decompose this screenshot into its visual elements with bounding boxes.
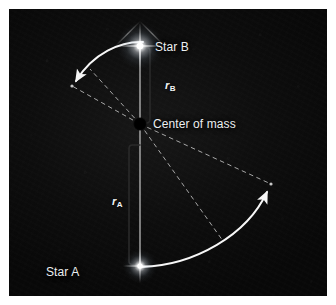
dashed-radius-a-rotated [140, 124, 271, 184]
radius-b-subscript: B [170, 84, 176, 93]
dashed-radius-a-intermediate [140, 124, 223, 241]
star-a-glyph [123, 249, 157, 283]
center-of-mass-label: Center of mass [153, 118, 236, 130]
radius-b-label: rB [165, 80, 175, 91]
radius-a-subscript: A [117, 200, 123, 209]
radius-a-symbol: r [112, 195, 116, 207]
dashed-radii-star-b [72, 69, 140, 124]
radius-a-label: rA [112, 196, 122, 207]
star-b-later-position-marker [70, 84, 73, 87]
binary-star-diagram: Star B Star A Center of mass rB rA [0, 0, 336, 305]
dashed-radius-b-intermediate [90, 69, 140, 124]
center-of-mass-dot [134, 118, 147, 131]
sky-panel: Star B Star A Center of mass rB rA [9, 9, 327, 296]
orbit-arc-star-a [142, 192, 267, 267]
star-b-label: Star B [155, 41, 189, 53]
star-a-label: Star A [46, 266, 79, 278]
radius-b-symbol: r [165, 79, 169, 91]
dashed-radii-star-a [140, 124, 271, 241]
dashed-radius-b-rotated [72, 86, 140, 124]
star-a-later-position-marker [269, 182, 272, 185]
radius-a-caliper [129, 145, 140, 265]
